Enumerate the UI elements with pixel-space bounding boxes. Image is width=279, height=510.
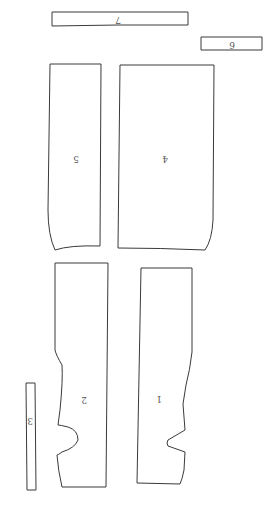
pattern-piece-4: 4 bbox=[118, 65, 214, 250]
piece-label-1: 1 bbox=[156, 394, 162, 404]
pattern-piece-2: 2 bbox=[55, 263, 108, 487]
pattern-diagram: 7 6 5 4 2 1 3 bbox=[0, 0, 279, 510]
pattern-piece-5: 5 bbox=[48, 64, 101, 250]
pattern-piece-7: 7 bbox=[52, 12, 188, 26]
pattern-piece-6: 6 bbox=[201, 37, 262, 50]
piece-label-5: 5 bbox=[73, 154, 79, 164]
piece-label-2: 2 bbox=[81, 395, 87, 405]
piece-label-6: 6 bbox=[229, 40, 235, 50]
piece-label-3: 3 bbox=[27, 416, 33, 426]
pattern-piece-3: 3 bbox=[26, 383, 36, 490]
pattern-piece-1: 1 bbox=[137, 268, 192, 484]
piece-label-7: 7 bbox=[115, 15, 121, 25]
piece-label-4: 4 bbox=[162, 154, 168, 164]
